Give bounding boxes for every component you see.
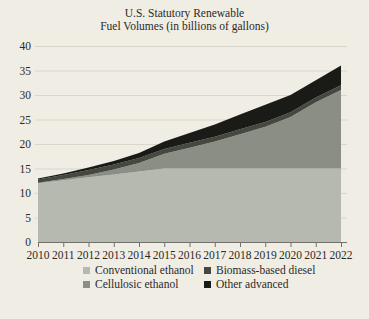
- legend-label: Conventional ethanol: [95, 264, 194, 277]
- chart-title: U.S. Statutory Renewable Fuel Volumes (i…: [0, 7, 369, 33]
- x-tick-label: 2016: [178, 249, 201, 261]
- x-tick-label: 2018: [229, 249, 252, 261]
- x-tick-label: 2019: [254, 249, 277, 261]
- y-tick-label: 35: [20, 65, 32, 77]
- legend-swatch-icon: [83, 281, 90, 288]
- legend-item-conventional-ethanol: Conventional ethanol: [83, 264, 204, 277]
- y-tick-label: 5: [25, 212, 31, 224]
- chart-figure: 0510152025303540201020112012201320142015…: [0, 0, 369, 319]
- y-tick-label: 0: [25, 236, 31, 248]
- x-tick-label: 2011: [52, 249, 75, 261]
- x-axis: [38, 243, 347, 248]
- legend-item-biomass-based-diesel: Biomass-based diesel: [204, 264, 315, 277]
- y-tick-label: 20: [20, 138, 32, 150]
- y-tick-label: 10: [20, 187, 32, 199]
- legend-label: Cellulosic ethanol: [95, 278, 178, 291]
- legend-label: Biomass-based diesel: [216, 264, 315, 277]
- chart-title-line2: Fuel Volumes (in billions of gallons): [0, 20, 369, 33]
- y-tick-label: 30: [20, 89, 32, 101]
- x-tick-label: 2015: [153, 249, 176, 261]
- x-tick-label: 2020: [279, 249, 302, 261]
- y-tick-label: 40: [20, 40, 32, 52]
- x-tick-label: 2013: [102, 249, 125, 261]
- legend-label: Other advanced: [216, 278, 288, 291]
- legend-item-other-advanced: Other advanced: [204, 278, 315, 291]
- chart-legend: Conventional ethanolBiomass-based diesel…: [83, 264, 315, 291]
- legend-swatch-icon: [204, 281, 211, 288]
- x-tick-label: 2022: [330, 249, 353, 261]
- y-axis-labels: 0510152025303540: [20, 40, 32, 248]
- x-tick-label: 2010: [27, 249, 50, 261]
- x-tick-label: 2014: [128, 249, 151, 261]
- x-tick-label: 2012: [77, 249, 100, 261]
- chart-title-line1: U.S. Statutory Renewable: [0, 7, 369, 20]
- legend-item-cellulosic-ethanol: Cellulosic ethanol: [83, 278, 204, 291]
- area-series-conventional-ethanol: [38, 169, 341, 243]
- legend-swatch-icon: [83, 267, 90, 274]
- x-tick-label: 2017: [203, 249, 226, 261]
- x-axis-labels: 2010201120122013201420152016201720182019…: [27, 249, 353, 261]
- legend-swatch-icon: [204, 267, 211, 274]
- y-tick-label: 25: [20, 114, 32, 126]
- x-tick-label: 2021: [304, 249, 327, 261]
- y-tick-label: 15: [20, 163, 32, 175]
